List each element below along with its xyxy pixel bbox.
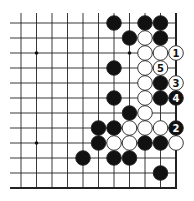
white-stone-icon bbox=[138, 46, 153, 61]
white-stone bbox=[138, 61, 153, 76]
black-stone bbox=[122, 106, 137, 121]
black-stone-icon bbox=[76, 151, 91, 166]
white-stone bbox=[122, 136, 137, 151]
black-stone-icon bbox=[107, 16, 122, 31]
black-stone-icon bbox=[153, 31, 168, 46]
white-stone-icon bbox=[153, 46, 168, 61]
white-stone-icon bbox=[138, 106, 153, 121]
star-point bbox=[35, 51, 39, 55]
white-stone bbox=[138, 76, 153, 91]
black-stone bbox=[122, 31, 137, 46]
white-stone-icon bbox=[169, 136, 184, 151]
move-number-label: 4 bbox=[173, 93, 180, 104]
white-stone-icon bbox=[138, 76, 153, 91]
black-stone-icon bbox=[122, 151, 137, 166]
black-stone-icon bbox=[107, 121, 122, 136]
black-stone bbox=[76, 151, 91, 166]
white-stone bbox=[138, 121, 153, 136]
move-3-white-stone: 3 bbox=[169, 76, 184, 91]
black-stone-icon bbox=[153, 166, 168, 181]
move-number-label: 1 bbox=[173, 48, 180, 59]
black-stone bbox=[122, 151, 137, 166]
move-4-black-stone: 4 bbox=[169, 91, 184, 106]
move-5-white-stone: 5 bbox=[153, 61, 168, 76]
black-stone-icon bbox=[107, 151, 122, 166]
black-stone-icon bbox=[153, 76, 168, 91]
black-stone-icon bbox=[153, 16, 168, 31]
white-stone-icon bbox=[122, 121, 137, 136]
white-stone-icon bbox=[153, 121, 168, 136]
black-stone-icon bbox=[153, 91, 168, 106]
black-stone-icon bbox=[153, 136, 168, 151]
black-stone bbox=[153, 76, 168, 91]
star-point bbox=[128, 51, 132, 55]
white-stone bbox=[138, 91, 153, 106]
black-stone-icon bbox=[107, 61, 122, 76]
black-stone-icon bbox=[107, 91, 122, 106]
black-stone bbox=[153, 166, 168, 181]
black-stone bbox=[107, 16, 122, 31]
black-stone-icon bbox=[138, 16, 153, 31]
white-stone-icon bbox=[138, 31, 153, 46]
white-stone bbox=[169, 136, 184, 151]
move-2-black-stone: 2 bbox=[169, 121, 184, 136]
black-stone-icon bbox=[91, 121, 106, 136]
white-stone bbox=[138, 106, 153, 121]
black-stone-icon bbox=[138, 136, 153, 151]
black-stone bbox=[138, 136, 153, 151]
white-stone bbox=[107, 136, 122, 151]
white-stone bbox=[138, 46, 153, 61]
black-stone bbox=[107, 151, 122, 166]
black-stone bbox=[153, 31, 168, 46]
white-stone-icon bbox=[107, 136, 122, 151]
go-board: 15342 bbox=[0, 0, 194, 201]
white-stone bbox=[153, 46, 168, 61]
black-stone bbox=[107, 91, 122, 106]
black-stone bbox=[153, 136, 168, 151]
black-stone bbox=[107, 61, 122, 76]
move-number-label: 3 bbox=[173, 78, 180, 89]
black-stone bbox=[153, 91, 168, 106]
black-stone-icon bbox=[122, 31, 137, 46]
white-stone bbox=[138, 31, 153, 46]
move-number-label: 2 bbox=[173, 123, 180, 134]
black-stone bbox=[91, 121, 106, 136]
black-stone bbox=[138, 16, 153, 31]
black-stone bbox=[91, 136, 106, 151]
black-stone bbox=[107, 121, 122, 136]
move-number-label: 5 bbox=[157, 63, 164, 74]
white-stone-icon bbox=[138, 61, 153, 76]
white-stone-icon bbox=[138, 91, 153, 106]
black-stone-icon bbox=[91, 136, 106, 151]
star-point bbox=[35, 141, 39, 145]
white-stone bbox=[122, 121, 137, 136]
move-1-white-stone: 1 bbox=[169, 46, 184, 61]
white-stone-icon bbox=[122, 136, 137, 151]
white-stone bbox=[153, 121, 168, 136]
black-stone bbox=[153, 16, 168, 31]
white-stone-icon bbox=[138, 121, 153, 136]
black-stone-icon bbox=[122, 106, 137, 121]
